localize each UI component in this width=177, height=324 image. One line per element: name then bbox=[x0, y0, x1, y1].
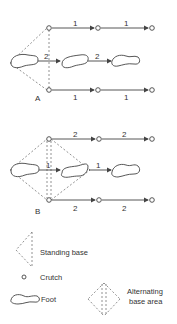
path-label: 2 bbox=[44, 52, 49, 61]
path-label: 1 bbox=[46, 161, 51, 170]
diagram-b: 2 2 1 1 2 2 B bbox=[10, 130, 154, 216]
foot-icon bbox=[11, 54, 140, 67]
legend: Standing base Crutch Foot Alternating ba… bbox=[11, 232, 163, 316]
path-label: 1 bbox=[124, 93, 129, 102]
path-label: 2 bbox=[122, 130, 127, 139]
foot-icon bbox=[11, 163, 140, 177]
legend-alternating-line1: Alternating bbox=[127, 287, 163, 296]
path-label: 2 bbox=[122, 204, 127, 213]
path-label: 2 bbox=[73, 204, 78, 213]
alternating-base-icon bbox=[88, 283, 120, 316]
crutch-icon bbox=[22, 275, 26, 279]
path-label: 1 bbox=[73, 19, 78, 28]
legend-crutch: Crutch bbox=[40, 273, 62, 282]
diagram-a: 1 1 2 2 1 1 A bbox=[10, 19, 154, 103]
legend-alternating-line2: base area bbox=[129, 297, 163, 306]
path-label: 2 bbox=[95, 52, 100, 61]
path-label: 1 bbox=[124, 19, 129, 28]
standing-base-icon bbox=[16, 232, 32, 267]
gait-diagram: 1 1 2 2 1 1 A bbox=[0, 0, 177, 324]
diagram-label-b: B bbox=[35, 207, 40, 216]
legend-foot: Foot bbox=[41, 295, 57, 304]
path-label: 1 bbox=[96, 161, 101, 170]
diagram-label-a: A bbox=[35, 94, 41, 103]
path-label: 1 bbox=[73, 93, 78, 102]
path-label: 2 bbox=[73, 130, 78, 139]
legend-standing-base: Standing base bbox=[40, 248, 88, 257]
foot-icon bbox=[11, 295, 40, 304]
